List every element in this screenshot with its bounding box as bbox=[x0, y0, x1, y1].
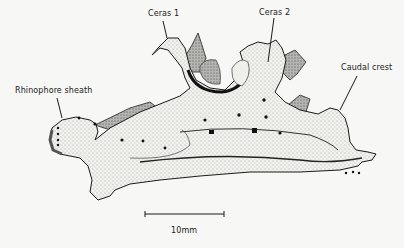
label-ceras-2: Ceras 2 bbox=[259, 8, 290, 17]
nudibranch-illustration bbox=[0, 0, 404, 248]
label-caudal-crest: Caudal crest bbox=[341, 63, 392, 72]
leader-caudal-crest bbox=[340, 76, 357, 110]
scale-bar bbox=[145, 211, 224, 217]
label-ceras-1: Ceras 1 bbox=[148, 9, 179, 18]
label-rhinophore-sheath: Rhinophore sheath bbox=[15, 86, 92, 95]
right-ceras-shaded bbox=[282, 50, 306, 80]
leader-ceras-1 bbox=[163, 21, 167, 38]
scale-bar-label: 10mm bbox=[171, 226, 197, 235]
ceras-cup-inner bbox=[200, 60, 221, 85]
leader-rhinophore bbox=[57, 98, 62, 118]
